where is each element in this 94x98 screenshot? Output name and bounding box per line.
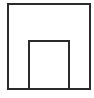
- inner-rectangle: [28, 40, 70, 89]
